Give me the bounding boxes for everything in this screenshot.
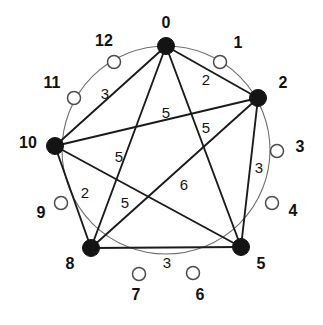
circulant-graph-diagram: 2332355565 0123456789101112: [0, 0, 323, 325]
graph-node-0[interactable]: [158, 38, 175, 55]
edge-weight-label-2-10: 5: [162, 104, 170, 121]
node-label-8: 8: [66, 255, 75, 272]
node-label-3: 3: [296, 138, 305, 155]
graph-node-2[interactable]: [250, 90, 267, 107]
node-label-1: 1: [234, 34, 243, 51]
graph-node-3[interactable]: [271, 145, 284, 158]
edge-weight-label-2-5: 3: [255, 159, 263, 176]
node-label-11: 11: [44, 74, 61, 91]
edge-weight-label-0-8: 5: [115, 148, 123, 165]
node-label-10: 10: [19, 134, 37, 151]
graph-canvas: 2332355565 0123456789101112: [0, 0, 323, 325]
graph-node-11[interactable]: [68, 92, 81, 105]
graph-node-1[interactable]: [214, 56, 227, 69]
chord-edges-layer: [55, 46, 258, 248]
edge-weight-label-10-0: 3: [101, 85, 109, 102]
chord-edge-0-8: [91, 46, 166, 248]
edge-weight-label-0-2: 2: [202, 71, 210, 88]
chord-edge-5-8: [91, 247, 241, 248]
node-label-9: 9: [37, 204, 46, 221]
graph-node-5[interactable]: [233, 239, 250, 256]
node-label-4: 4: [289, 202, 298, 219]
chord-edge-2-10: [55, 98, 258, 146]
node-label-12: 12: [95, 32, 113, 49]
graph-node-9[interactable]: [55, 197, 68, 210]
edge-weight-label-5-10: 5: [121, 194, 129, 211]
node-label-2: 2: [279, 74, 288, 91]
graph-node-12[interactable]: [108, 56, 121, 69]
node-label-5: 5: [257, 255, 266, 272]
nodes-layer: [47, 38, 284, 281]
edge-weight-label-5-8: 3: [163, 254, 171, 271]
edge-weight-label-0-5: 5: [202, 119, 210, 136]
graph-node-10[interactable]: [47, 138, 64, 155]
node-label-7: 7: [132, 286, 141, 303]
edge-weight-label-2-8: 6: [180, 176, 188, 193]
graph-node-6[interactable]: [187, 267, 200, 280]
node-label-6: 6: [196, 286, 205, 303]
node-label-0: 0: [162, 14, 171, 31]
graph-node-4[interactable]: [266, 197, 279, 210]
edge-weight-label-8-10: 2: [81, 184, 89, 201]
graph-node-7[interactable]: [133, 268, 146, 281]
chord-edge-0-2: [166, 46, 258, 98]
outer-ring-circle: [62, 46, 270, 254]
graph-node-8[interactable]: [83, 240, 100, 257]
